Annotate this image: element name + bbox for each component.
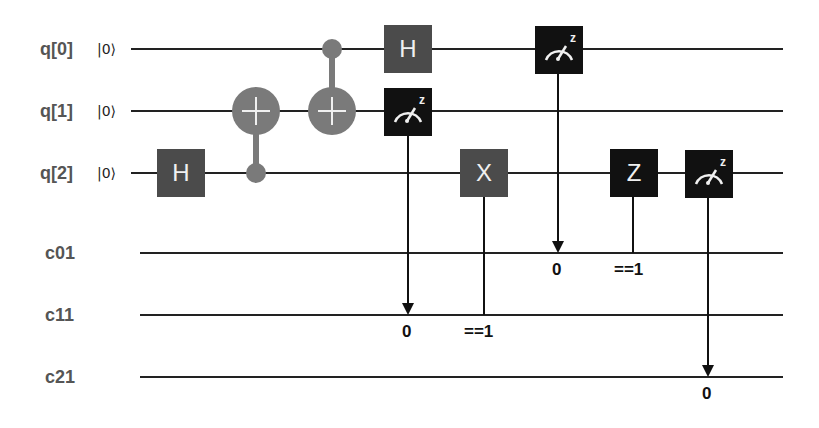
meas-q0-line <box>557 72 559 242</box>
classical-label-c11: c11 <box>45 305 74 325</box>
meas-q0-result: 0 <box>552 260 561 280</box>
meas-q2-arrow-icon <box>702 365 714 377</box>
meas-q0-arrow-icon <box>552 241 564 253</box>
measure-gate-q1[interactable]: z <box>384 88 432 136</box>
qubit-label-q0: q[0] <box>40 39 73 59</box>
init-state-q0: |0⟩ <box>97 41 116 57</box>
x-condition: ==1 <box>464 322 493 342</box>
wire-c11 <box>140 314 783 316</box>
svg-text:z: z <box>570 31 576 45</box>
h-gate-q2[interactable]: H <box>157 149 205 197</box>
qubit-label-q1: q[1] <box>40 101 73 121</box>
x-gate-q2[interactable]: X <box>460 149 508 197</box>
classical-label-c21: c21 <box>45 367 75 387</box>
cnot1-target-icon[interactable] <box>232 87 280 135</box>
qubit-label-q2: q[2] <box>40 163 73 183</box>
svg-text:z: z <box>720 155 726 169</box>
x-cond-line <box>483 196 485 315</box>
meas-q2-line <box>707 196 709 366</box>
classical-label-c01: c01 <box>45 243 75 263</box>
meter-icon: z <box>685 150 733 198</box>
wire-q0 <box>131 48 783 50</box>
cnot2-control-dot[interactable] <box>322 39 342 59</box>
z-gate-q2[interactable]: Z <box>610 149 658 197</box>
wire-c21 <box>140 376 783 378</box>
init-state-q2: |0⟩ <box>97 165 116 181</box>
meas-q2-result: 0 <box>702 384 711 404</box>
cnot1-control-dot[interactable] <box>246 163 266 183</box>
meas-q1-arrow-icon <box>402 303 414 315</box>
meas-q1-result: 0 <box>402 322 411 342</box>
meter-icon: z <box>384 88 432 136</box>
measure-gate-q2[interactable]: z <box>685 150 733 198</box>
measure-gate-q0[interactable]: z <box>535 26 583 74</box>
meter-icon: z <box>535 26 583 74</box>
meas-q1-line <box>407 134 409 304</box>
init-state-q1: |0⟩ <box>97 103 116 119</box>
wire-c01 <box>140 252 783 254</box>
cnot2-target-icon[interactable] <box>308 87 356 135</box>
h-gate-q0[interactable]: H <box>384 25 432 73</box>
svg-text:z: z <box>419 93 425 107</box>
wire-q1 <box>131 110 783 112</box>
z-condition: ==1 <box>614 260 643 280</box>
z-cond-line <box>632 196 634 253</box>
